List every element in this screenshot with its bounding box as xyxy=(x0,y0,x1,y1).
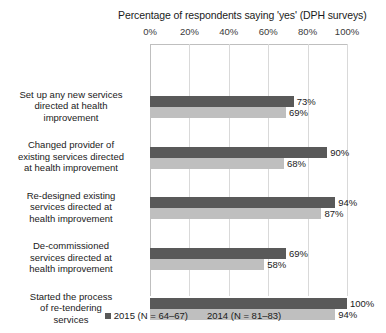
x-tick-label: 80% xyxy=(298,26,317,37)
bar-2015 xyxy=(150,96,294,107)
bar-value-label: 87% xyxy=(324,208,343,219)
legend-swatch-icon xyxy=(105,313,111,319)
category-label-line: directed at health xyxy=(0,100,142,112)
legend-label: 2015 (N = 64–67) xyxy=(114,310,188,321)
bar-2014 xyxy=(150,208,321,219)
x-tick-label: 40% xyxy=(219,26,238,37)
bar-value-label: 58% xyxy=(267,259,286,270)
bar-value-label: 90% xyxy=(330,147,349,158)
x-tick-label: 20% xyxy=(180,26,199,37)
x-tick-label: 0% xyxy=(143,26,157,37)
category-label-line: Started the process xyxy=(0,291,142,303)
chart-container: Percentage of respondents saying 'yes' (… xyxy=(0,0,386,333)
plot-area: 73%69%90%68%94%87%69%58%100%94% xyxy=(150,44,347,296)
category-label-line: at health improvement xyxy=(0,162,142,174)
bar-value-label: 73% xyxy=(297,96,316,107)
bar-2015 xyxy=(150,197,335,208)
category-label-line: De-commissioned xyxy=(0,240,142,252)
bar-2014 xyxy=(150,107,286,118)
category-label: Re-designed existingservices directed at… xyxy=(0,190,142,225)
category-label: Changed provider ofexisting services dir… xyxy=(0,139,142,174)
category-label: De-commissionedservices directed athealt… xyxy=(0,240,142,275)
chart-title: Percentage of respondents saying 'yes' (… xyxy=(118,9,382,21)
category-label: Set up any new servicesdirected at healt… xyxy=(0,89,142,124)
category-label-line: Set up any new services xyxy=(0,89,142,101)
gridline xyxy=(347,44,348,296)
category-label-line: Re-designed existing xyxy=(0,190,142,202)
legend-swatch-icon xyxy=(198,313,204,319)
x-tick-label: 60% xyxy=(259,26,278,37)
bar-value-label: 100% xyxy=(350,298,374,309)
bar-2014 xyxy=(150,259,264,270)
category-label-line: existing services directed xyxy=(0,151,142,163)
category-label-line: services directed at xyxy=(0,252,142,264)
bar-value-label: 69% xyxy=(289,248,308,259)
legend-label: 2014 (N = 81–83) xyxy=(207,310,281,321)
bar-value-label: 69% xyxy=(289,107,308,118)
category-label-line: services directed at xyxy=(0,201,142,213)
category-label-line: Changed provider of xyxy=(0,139,142,151)
bar-value-label: 94% xyxy=(338,197,357,208)
category-label-line: health improvement xyxy=(0,263,142,275)
bar-2015 xyxy=(150,298,347,309)
chart-legend: 2015 (N = 64–67)2014 (N = 81–83) xyxy=(0,310,386,321)
category-label-line: health improvement xyxy=(0,213,142,225)
bar-2015 xyxy=(150,147,327,158)
legend-item-2015[interactable]: 2015 (N = 64–67) xyxy=(105,310,188,321)
x-tick-label: 100% xyxy=(335,26,359,37)
legend-item-2014[interactable]: 2014 (N = 81–83) xyxy=(198,310,281,321)
category-label-line: improvement xyxy=(0,112,142,124)
bar-value-label: 68% xyxy=(287,158,306,169)
bar-2015 xyxy=(150,248,286,259)
bar-2014 xyxy=(150,158,284,169)
